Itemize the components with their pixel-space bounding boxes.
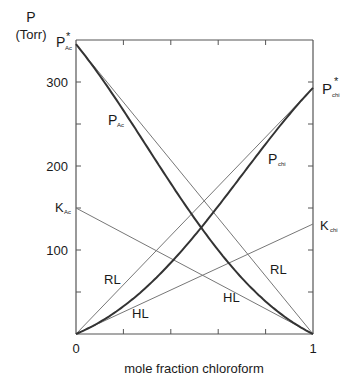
p-ac-star-label: P Ac * [56,30,72,51]
p-ac-curve-label: P Ac [108,112,124,128]
hl-right-label: HL [223,290,240,305]
x-tick-label-0: 0 [72,341,79,356]
p-chi-main: P [268,151,277,167]
p-ac-sub: Ac [117,122,124,128]
vapor-pressure-chart: P (Torr) 300 200 100 0 1 mole fraction c… [0,0,355,381]
rl-ac-line [76,44,313,334]
k-ac-label: K Ac [55,200,71,215]
p-chi-curve-label: P chi [268,151,286,167]
p-chi-star-main: P [322,80,332,97]
rl-right-label: RL [270,262,287,277]
p-ac-star-sub: Ac [65,45,72,51]
y-axis-title: P [26,9,35,25]
k-ac-sub: Ac [64,209,71,215]
p-ac-star-sup: * [66,30,71,42]
k-chi-sub: chi [330,227,338,233]
p-chi-star-label: P chi * [322,75,340,98]
rl-left-label: RL [104,272,121,287]
y-tick-label-100: 100 [46,243,68,258]
p-chi-star-sub: chi [332,92,340,98]
p-chi-star-sup: * [334,75,339,87]
y-axis-unit: (Torr) [15,27,46,42]
x-tick-label-1: 1 [309,341,316,356]
ideal-law-lines [76,44,313,334]
k-ac-main: K [55,200,64,215]
k-chi-label: K chi [320,218,338,233]
y-tick-label-200: 200 [46,159,68,174]
p-chi-sub: chi [278,161,286,167]
x-axis-title: mole fraction chloroform [124,361,263,376]
p-ac-star-main: P [56,34,65,50]
y-tick-label-300: 300 [46,75,68,90]
hl-left-label: HL [132,306,149,321]
k-chi-main: K [320,218,329,233]
p-ac-main: P [108,112,117,128]
